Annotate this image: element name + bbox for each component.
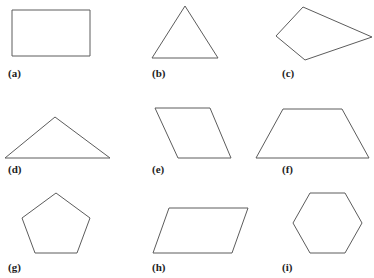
- shape-cell-h: [125, 186, 250, 278]
- kite-quadrilateral-outline: [276, 7, 372, 60]
- parallelogram-wide-outline: [153, 208, 248, 253]
- parallelogram-steep-shape: [125, 93, 250, 186]
- obtuse-triangle-outline: [5, 117, 110, 158]
- figure-sheet: (a)(b)(c)(d)(e)(f)(g)(h)(i): [0, 0, 374, 278]
- shape-label-h: (h): [152, 262, 165, 273]
- parallelogram-steep-outline: [155, 108, 231, 158]
- shape-cell-i: [250, 186, 374, 278]
- shape-label-c: (c): [282, 68, 294, 79]
- parallelogram-wide-shape: [125, 186, 250, 278]
- hexagon-shape: [250, 186, 374, 278]
- triangle-shape: [125, 0, 250, 93]
- shape-cell-a: [0, 0, 125, 93]
- kite-quadrilateral-shape: [250, 0, 374, 93]
- rectangle-outline: [12, 10, 90, 56]
- shape-cell-b: [125, 0, 250, 93]
- shape-label-a: (a): [8, 68, 21, 79]
- shape-cell-e: [125, 93, 250, 186]
- shape-label-b: (b): [152, 68, 165, 79]
- pentagon-outline: [22, 193, 90, 253]
- shape-label-i: (i): [282, 262, 292, 273]
- hexagon-outline: [293, 193, 362, 253]
- shape-label-f: (f): [282, 164, 293, 175]
- triangle-outline: [152, 6, 218, 58]
- shape-cell-f: [250, 93, 374, 186]
- trapezoid-shape: [250, 93, 374, 186]
- rectangle-shape: [0, 0, 125, 93]
- shape-label-g: (g): [8, 262, 21, 273]
- shape-label-e: (e): [152, 164, 164, 175]
- shape-cell-c: [250, 0, 374, 93]
- trapezoid-outline: [256, 109, 369, 158]
- shape-label-d: (d): [8, 164, 21, 175]
